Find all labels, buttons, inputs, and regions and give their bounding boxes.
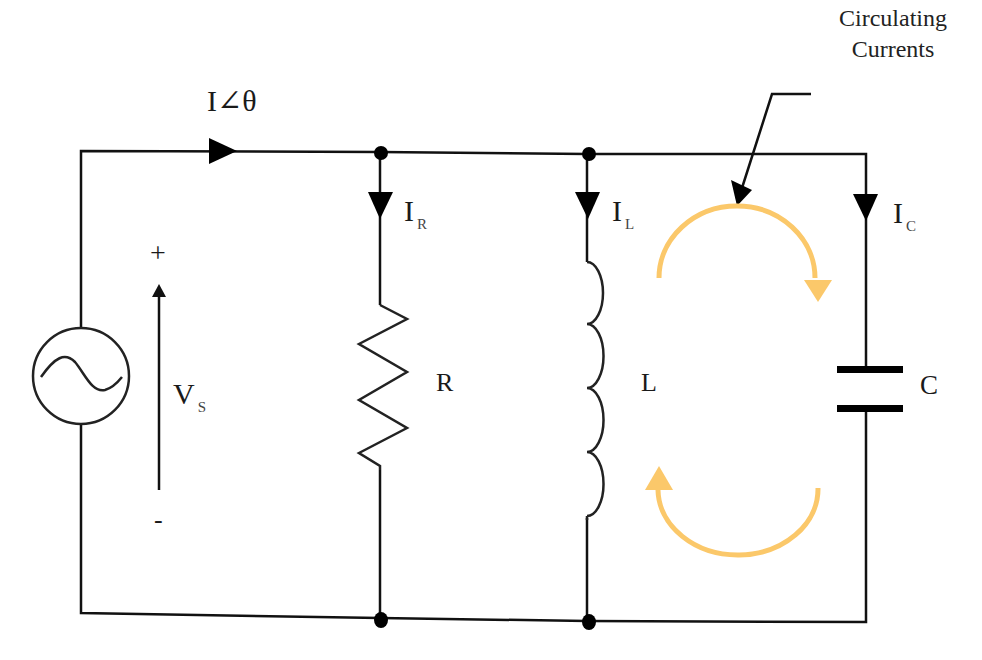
circulating-arc-bottom (658, 488, 818, 555)
capacitor-icon (837, 366, 903, 412)
circulating-current-arrows (645, 206, 832, 555)
callout-pointer (731, 94, 811, 206)
inductor-icon (587, 262, 604, 516)
inductor-label: L (641, 370, 657, 396)
resistor-icon (359, 305, 407, 470)
voltage-arrow (152, 284, 166, 490)
bottom-wire (81, 408, 866, 622)
circulating-currents-callout: Circulating Currents (808, 3, 978, 65)
capacitor-current-label: IC (893, 198, 916, 228)
inductor-current-label: IL (612, 196, 634, 226)
arrow-down-icon (575, 192, 600, 219)
source-minus-sign: - (154, 507, 163, 533)
ac-source (33, 328, 129, 424)
source-voltage-label: VS (173, 379, 206, 409)
resistor-current-label: IR (404, 196, 427, 226)
total-current-label: I∠θ (207, 86, 257, 116)
arrow-down-left-icon (731, 180, 752, 206)
source-circle (33, 328, 129, 424)
arrow-up-icon (645, 466, 673, 490)
junction-dot (582, 614, 596, 630)
arrow-down-icon (368, 192, 393, 219)
arrow-down-icon (804, 280, 832, 302)
arrow-down-icon (853, 194, 878, 221)
arrow-right-icon (209, 138, 237, 164)
circulating-arc-top (659, 206, 815, 278)
resistor-label: R (436, 370, 453, 396)
junction-dot (582, 147, 596, 161)
capacitor-label: C (920, 372, 938, 399)
source-plus-sign: + (150, 239, 166, 267)
top-wire (81, 151, 866, 370)
circuit-schematic (0, 0, 982, 660)
parallel-rlc-diagram: I∠θ + - VS IR IL IC R L C Circulating Cu… (0, 0, 982, 660)
arrow-up-icon (152, 284, 166, 297)
junction-dot (374, 612, 388, 628)
junction-dot (374, 146, 388, 160)
